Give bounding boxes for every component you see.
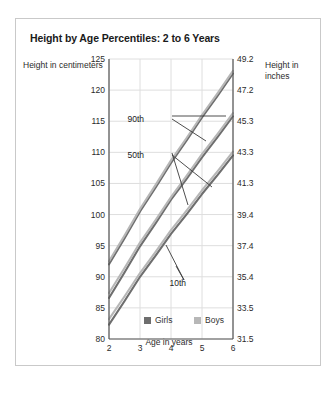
y-tick-left: 85 xyxy=(96,303,106,313)
y-tick-left: 80 xyxy=(96,334,106,344)
y-tick-left: 115 xyxy=(91,116,105,126)
chart-plot-area: 8085909510010511011512012531.533.535.437… xyxy=(16,19,322,367)
annotation-label-90th: 90th xyxy=(127,114,144,124)
y-tick-right: 33.5 xyxy=(237,303,254,313)
y-tick-left: 95 xyxy=(96,241,106,251)
y-tick-left: 90 xyxy=(96,272,106,282)
y-tick-right: 41.3 xyxy=(237,178,254,188)
legend-swatch-girls xyxy=(144,317,151,324)
chart-figure-frame: Height by Age Percentiles: 2 to 6 Years … xyxy=(15,18,321,366)
y-tick-left: 120 xyxy=(91,85,105,95)
percentile-annotations: 90th50th10th xyxy=(127,114,226,288)
y-tick-left: 105 xyxy=(91,178,105,188)
x-tick: 2 xyxy=(107,343,112,353)
legend-label-boys: Boys xyxy=(205,315,224,325)
chart-legend: GirlsBoys xyxy=(144,315,224,325)
y-tick-right: 47.2 xyxy=(237,85,254,95)
annotation-label-10th: 10th xyxy=(169,278,186,288)
legend-label-girls: Girls xyxy=(155,315,172,325)
x-tick: 3 xyxy=(138,343,143,353)
x-tick: 6 xyxy=(231,343,236,353)
y-tick-right: 37.4 xyxy=(237,241,254,251)
x-tick: 4 xyxy=(169,343,174,353)
y-tick-right: 43.3 xyxy=(237,147,254,157)
y-tick-left: 125 xyxy=(91,54,105,64)
y-tick-right: 45.3 xyxy=(237,116,254,126)
y-tick-right: 35.4 xyxy=(237,272,254,282)
annotation-label-50th: 50th xyxy=(127,150,144,160)
y-tick-left: 110 xyxy=(91,147,105,157)
legend-swatch-boys xyxy=(194,317,201,324)
y-tick-right: 31.5 xyxy=(237,334,254,344)
y-tick-right: 39.4 xyxy=(237,210,254,220)
y-tick-right: 49.2 xyxy=(237,54,254,64)
y-tick-left: 100 xyxy=(91,210,105,220)
x-tick: 5 xyxy=(200,343,205,353)
